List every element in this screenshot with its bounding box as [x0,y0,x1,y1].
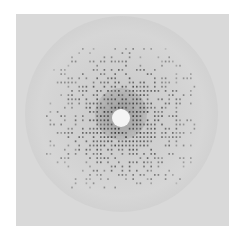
beam-stop [112,109,130,127]
